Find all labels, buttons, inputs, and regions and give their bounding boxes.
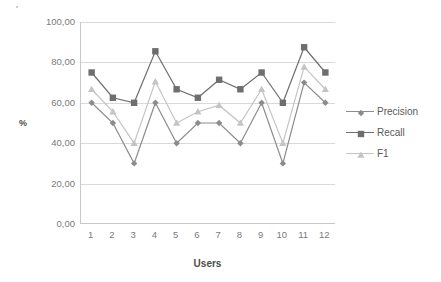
data-point-marker [173,86,179,92]
data-point-marker [152,100,158,106]
data-point-marker [258,69,264,75]
series-container [81,22,336,224]
x-tick-label: 5 [173,229,178,241]
data-point-marker [88,86,95,92]
x-tick-label: 10 [277,229,288,241]
x-tick-label: 12 [319,229,330,241]
series-line [92,67,326,143]
data-point-marker [195,95,201,101]
y-tick-label: 20,00 [28,179,75,189]
y-axis-tick-labels: 0,0020,0040,0060,0080,00100,00 [28,0,75,282]
y-tick-label: 80,00 [28,57,75,67]
x-tick-label: 4 [152,229,157,241]
data-point-marker [280,160,286,166]
legend-swatch [346,127,374,139]
x-tick-label: 8 [237,229,242,241]
x-tick-label: 6 [194,229,199,241]
x-tick-label: 9 [258,229,263,241]
x-tick-label: 2 [109,229,114,241]
legend-item-f1[interactable]: F1 [346,143,438,164]
data-point-marker [358,109,364,115]
image-speck [16,6,18,8]
x-tick-label: 7 [215,229,220,241]
data-point-marker [301,63,308,69]
series-line [92,83,326,164]
data-point-marker [152,48,158,54]
legend-label: F1 [377,148,389,159]
data-point-marker [216,77,222,83]
x-axis-title: Users [80,258,335,269]
data-point-marker [88,69,94,75]
series-recall [88,44,328,106]
x-tick-label: 1 [88,229,93,241]
series-precision [88,79,328,166]
data-point-marker [279,140,286,146]
y-tick-label: 40,00 [28,138,75,148]
legend-item-recall[interactable]: Recall [346,122,438,143]
legend-label: Recall [377,127,405,138]
data-point-marker [258,86,265,92]
data-point-marker [280,100,286,106]
legend-item-precision[interactable]: Precision [346,101,438,122]
data-point-marker [322,69,328,75]
legend-marker-diamond-icon [357,109,365,117]
y-tick-label: 100,00 [28,17,75,27]
data-point-marker [237,86,243,92]
legend-swatch [346,106,374,118]
legend-marker-square-icon [357,130,365,138]
line-chart: % 0,0020,0040,0060,0080,00100,00 1234567… [0,0,441,282]
data-point-marker [216,102,223,108]
y-tick-label: 0,00 [28,219,75,229]
data-point-marker [152,78,159,84]
data-point-marker [258,100,264,106]
data-point-marker [110,95,116,101]
data-point-marker [131,100,137,106]
chart-legend: PrecisionRecallF1 [346,101,438,164]
plot-area [80,22,335,224]
data-point-marker [173,119,180,125]
x-tick-label: 11 [298,229,308,241]
x-axis-tick-labels: 123456789101112 [80,229,335,243]
data-point-marker [131,160,137,166]
legend-swatch [346,148,374,160]
legend-marker-triangle-icon [357,151,365,159]
legend-label: Precision [377,106,418,117]
data-point-marker [358,130,364,136]
y-tick-label: 60,00 [28,98,75,108]
x-tick-label: 3 [130,229,135,241]
data-point-marker [357,151,364,157]
data-point-marker [131,140,138,146]
data-point-marker [301,44,307,50]
series-line [92,47,326,103]
